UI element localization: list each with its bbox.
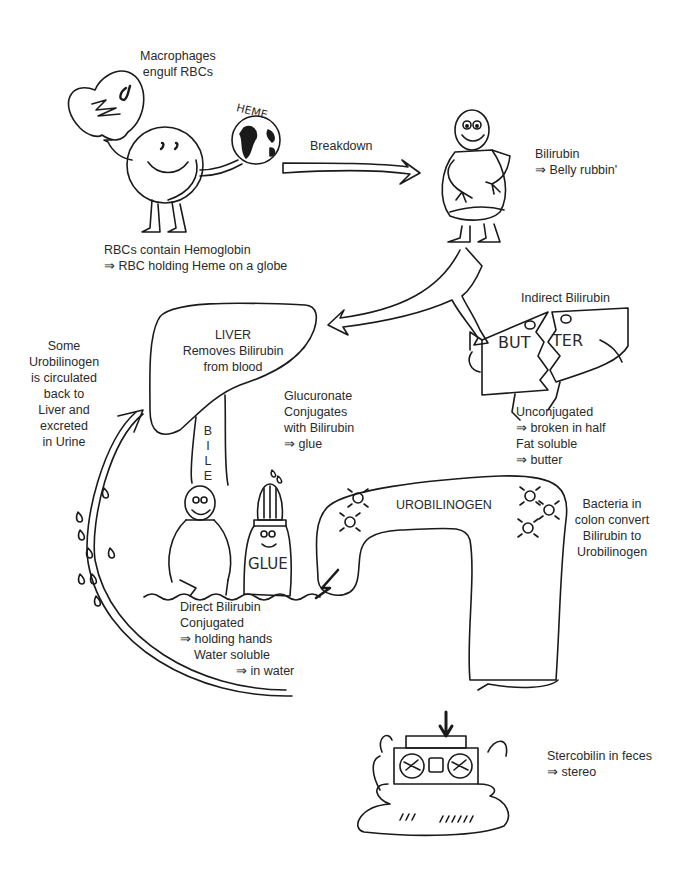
butter-left-label: BUT	[498, 335, 530, 351]
direct-bilirubin-label: Direct Bilirubin Conjugated ⇒ holding ha…	[180, 599, 294, 679]
split-arrow-icon	[328, 248, 488, 345]
butter-right-label: TER	[552, 333, 583, 349]
bilirubin-metabolism-diagram: Macrophages engulf RBCs HEME RBCs contai…	[0, 0, 689, 874]
glucuronate-label: Glucuronate Conjugates with Bilirubin ⇒ …	[284, 388, 354, 452]
bilirubin-character-icon	[442, 110, 510, 242]
rbc-label: RBCs contain Hemoglobin ⇒ RBC holding He…	[104, 242, 287, 274]
urobilinogen-recirculation-label: Some Urobilinogen is circulated back to …	[20, 338, 108, 450]
rbc-character-icon	[104, 127, 242, 232]
macrophages-label: Macrophages engulf RBCs	[140, 48, 216, 80]
liver-label: LIVER Removes Bilirubin from blood	[168, 327, 298, 375]
feces-icon	[358, 736, 509, 836]
bacteria-label: Bacteria in colon convert Bilirubin to U…	[572, 496, 652, 560]
stereo-icon	[394, 712, 478, 784]
heme-globe-icon	[232, 116, 280, 164]
macrophage-icon	[68, 71, 143, 140]
urobilinogen-label: UROBILINOGEN	[396, 497, 492, 513]
bile-label: B I L E	[202, 424, 214, 484]
indirect-bilirubin-label: Indirect Bilirubin	[521, 290, 610, 306]
stercobilin-label: Stercobilin in feces ⇒ stereo	[547, 748, 652, 780]
glue-bottle-icon	[244, 470, 291, 596]
breakdown-label: Breakdown	[310, 138, 373, 154]
bilirubin-label: Bilirubin ⇒ Belly rubbin'	[535, 146, 617, 178]
unconjugated-label: Unconjugated ⇒ broken in half Fat solubl…	[516, 404, 606, 468]
glue-label: GLUE	[248, 556, 288, 572]
breakdown-arrow-icon	[283, 160, 420, 184]
direct-bilirubin-character-icon	[169, 486, 231, 596]
